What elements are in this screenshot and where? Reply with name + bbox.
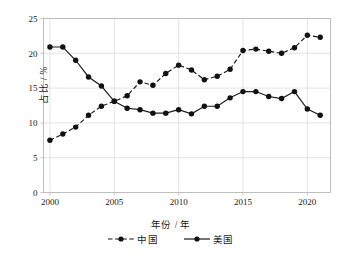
data-point [150, 83, 155, 88]
data-point [137, 107, 142, 112]
data-point [47, 138, 52, 143]
legend-swatch-dashed-icon [108, 234, 134, 244]
data-point [292, 45, 297, 50]
data-point [176, 62, 181, 67]
data-point [86, 74, 91, 79]
data-point [86, 113, 91, 118]
data-point [240, 89, 245, 94]
legend-swatch-solid-icon [184, 234, 210, 244]
data-point [73, 124, 78, 129]
data-point [99, 83, 104, 88]
data-point [176, 107, 181, 112]
svg-text:2020: 2020 [298, 197, 317, 207]
data-point [279, 96, 284, 101]
chart-figure: 0510152025 20002005201020152020 占比 / % 年… [0, 0, 342, 256]
legend-item-china[interactable]: 中国 [108, 232, 158, 246]
data-point [163, 71, 168, 76]
legend-item-usa[interactable]: 美国 [184, 232, 234, 246]
data-point [305, 106, 310, 111]
legend-label-china: 中国 [137, 232, 158, 246]
data-point [189, 111, 194, 116]
legend-label-usa: 美国 [213, 232, 234, 246]
svg-text:2005: 2005 [105, 197, 124, 207]
data-point [279, 51, 284, 56]
svg-text:2000: 2000 [41, 197, 60, 207]
data-point [60, 44, 65, 49]
data-point [318, 113, 323, 118]
data-point [253, 89, 258, 94]
data-point [227, 67, 232, 72]
data-point [124, 106, 129, 111]
svg-text:25: 25 [29, 14, 39, 24]
data-point [253, 46, 258, 51]
data-point [163, 110, 168, 115]
data-point [99, 104, 104, 109]
data-point [215, 74, 220, 79]
data-point [240, 48, 245, 53]
series-line-1 [50, 47, 320, 115]
data-point [318, 35, 323, 40]
data-point [202, 104, 207, 109]
data-point [202, 77, 207, 82]
x-axis-title: 年份 / 年 [0, 217, 342, 231]
svg-text:5: 5 [33, 153, 38, 163]
svg-text:0: 0 [33, 188, 38, 198]
data-point [266, 49, 271, 54]
data-point [137, 79, 142, 84]
y-axis-title: 占比 / % [36, 40, 50, 130]
data-point [266, 94, 271, 99]
svg-text:2010: 2010 [170, 197, 189, 207]
x-axis-tick-labels: 20002005201020152020 [41, 193, 317, 207]
data-point [305, 33, 310, 38]
data-point [73, 58, 78, 63]
data-point [124, 93, 129, 98]
data-point [60, 131, 65, 136]
data-point [292, 89, 297, 94]
svg-text:2015: 2015 [234, 197, 253, 207]
data-point [150, 110, 155, 115]
data-point [227, 95, 232, 100]
gridlines [44, 19, 331, 193]
data-point [189, 67, 194, 72]
data-point [215, 104, 220, 109]
chart-legend: 中国 美国 [0, 232, 342, 246]
data-point [112, 99, 117, 104]
plot-frame [44, 19, 331, 193]
